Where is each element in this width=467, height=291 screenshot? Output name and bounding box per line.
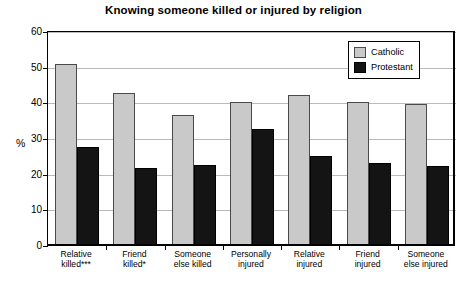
bar-protestant-1 bbox=[135, 168, 157, 245]
bar-protestant-6 bbox=[427, 166, 449, 245]
y-axis-tick-label: 50 bbox=[14, 63, 42, 73]
bar-protestant-3 bbox=[252, 129, 274, 245]
legend-item-protestant[interactable]: Protestant bbox=[354, 61, 413, 74]
bar-protestant-5 bbox=[369, 163, 391, 245]
y-axis-label: % bbox=[16, 137, 25, 149]
gridline bbox=[48, 103, 456, 104]
y-axis-tick-label: 60 bbox=[14, 27, 42, 37]
bar-protestant-4 bbox=[310, 156, 332, 245]
x-axis-category-label: Someoneelse killed bbox=[164, 249, 222, 270]
x-axis-category-label: Relativekilled*** bbox=[47, 249, 105, 270]
bar-catholic-0 bbox=[55, 64, 77, 245]
y-axis-tick bbox=[43, 139, 48, 140]
x-axis-category-label: Friendkilled* bbox=[105, 249, 163, 270]
x-axis-category-label: Someoneelse injured bbox=[397, 249, 455, 270]
bar-catholic-4 bbox=[288, 95, 310, 245]
bar-catholic-5 bbox=[347, 102, 369, 245]
chart-legend: CatholicProtestant bbox=[348, 41, 420, 79]
bar-catholic-1 bbox=[113, 93, 135, 245]
y-axis-tick-label: 40 bbox=[14, 98, 42, 108]
y-axis-tick bbox=[43, 175, 48, 176]
plot-right-border bbox=[453, 31, 454, 245]
y-axis-tick-label: 10 bbox=[14, 205, 42, 215]
bar-catholic-2 bbox=[172, 115, 194, 245]
bar-catholic-6 bbox=[405, 104, 427, 245]
bar-catholic-3 bbox=[230, 102, 252, 245]
y-axis-tick bbox=[43, 32, 48, 33]
legend-swatch-protestant bbox=[354, 62, 366, 73]
y-axis-tick bbox=[43, 246, 48, 247]
x-axis-category-label: Personallyinjured bbox=[222, 249, 280, 270]
y-axis-tick bbox=[43, 68, 48, 69]
bar-protestant-2 bbox=[194, 165, 216, 245]
x-axis-line bbox=[47, 244, 455, 246]
gridline bbox=[48, 32, 456, 33]
x-axis-category-label: Friendinjured bbox=[338, 249, 396, 270]
legend-item-catholic[interactable]: Catholic bbox=[354, 46, 413, 59]
chart-title: Knowing someone killed or injured by rel… bbox=[0, 4, 467, 16]
legend-label: Catholic bbox=[371, 48, 404, 57]
y-axis-tick-label: 0 bbox=[14, 241, 42, 251]
chart-container: Knowing someone killed or injured by rel… bbox=[0, 0, 467, 291]
bar-protestant-0 bbox=[77, 147, 99, 245]
y-axis-tick bbox=[43, 210, 48, 211]
legend-swatch-catholic bbox=[354, 47, 366, 58]
legend-label: Protestant bbox=[371, 63, 413, 72]
y-axis-tick-label: 20 bbox=[14, 170, 42, 180]
x-axis-category-label: Relativeinjured bbox=[280, 249, 338, 270]
y-axis-tick bbox=[43, 103, 48, 104]
